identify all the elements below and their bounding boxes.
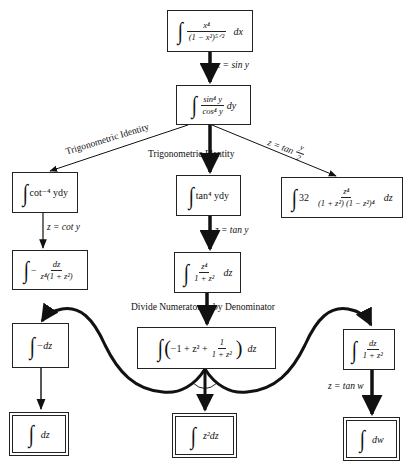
- fraction: dz 1 + z²: [361, 339, 385, 360]
- fraction: 1 1 + z²: [210, 338, 234, 359]
- integral-sign: ∫: [24, 258, 29, 282]
- node-arctan-form: ∫ dz 1 + z²: [343, 329, 395, 370]
- edge-label-trig-identity-center: Trigonometric Identity: [148, 149, 234, 159]
- integral-sign: ∫: [29, 422, 34, 446]
- fraction: z⁴ (1 + z²) (1 − z²)⁴: [316, 187, 377, 208]
- node-tan-substituted: ∫ z⁴ 1 + z² dz: [174, 252, 241, 293]
- integral-sign: ∫: [157, 336, 162, 360]
- node-trig-substitution: ∫ sin⁴ y cos⁴ y dy: [176, 85, 251, 125]
- node-cot-substituted: ∫ − dz z⁴(1 + z²): [12, 250, 88, 290]
- integral-sign: ∫: [192, 93, 197, 117]
- integral-sign: ∫: [23, 181, 28, 205]
- fraction: x⁴ (1 − x²)⁵ᐟ²: [187, 21, 227, 42]
- integral-sign: ∫: [178, 19, 183, 43]
- integral-sign: ∫: [30, 334, 35, 358]
- integral-sign: ∫: [191, 424, 196, 448]
- fraction: sin⁴ y cos⁴ y: [200, 95, 224, 116]
- node-final-z2dz: ∫ z²dz: [175, 416, 234, 455]
- fraction: dz z⁴(1 + z²): [39, 260, 75, 281]
- fraction: z⁴ 1 + z²: [192, 262, 216, 283]
- edge-label-z-cot-y: z = cot y: [47, 222, 80, 232]
- edge-label-x-sin-y: x = sin y: [216, 60, 249, 70]
- integral-sign: ∫: [352, 338, 357, 362]
- node-half-angle-form: ∫ 32 z⁴ (1 + z²) (1 − z²)⁴ dz: [281, 177, 403, 218]
- integral-sign: ∫: [292, 186, 297, 210]
- edge-label-divide-numerator: Divide Numerator: [131, 302, 200, 312]
- node-final-dz: ∫ dz: [12, 415, 66, 453]
- edge-label-z-tan-y: z = tan y: [215, 225, 249, 235]
- integral-sign: ∫: [183, 261, 188, 285]
- node-cot-form: ∫ cot⁻⁴ ydy: [12, 172, 78, 213]
- edge-label-by-denominator: by Denominator: [213, 302, 275, 312]
- node-final-dw: ∫ dw: [346, 420, 397, 458]
- node-neg-dz: ∫ −dz: [12, 323, 69, 368]
- integral-sign: ∫: [189, 184, 194, 208]
- edge-label-z-tan-w: z = tan w: [328, 381, 364, 391]
- node-divided: ∫ ( −1 + z² + 1 1 + z² ) dz: [137, 327, 276, 369]
- node-tan-form: ∫ tan⁴ ydy: [176, 175, 241, 216]
- node-root: ∫ x⁴ (1 − x²)⁵ᐟ² dx: [167, 10, 253, 52]
- edge-layer: [0, 0, 410, 467]
- integral-sign: ∫: [360, 427, 365, 451]
